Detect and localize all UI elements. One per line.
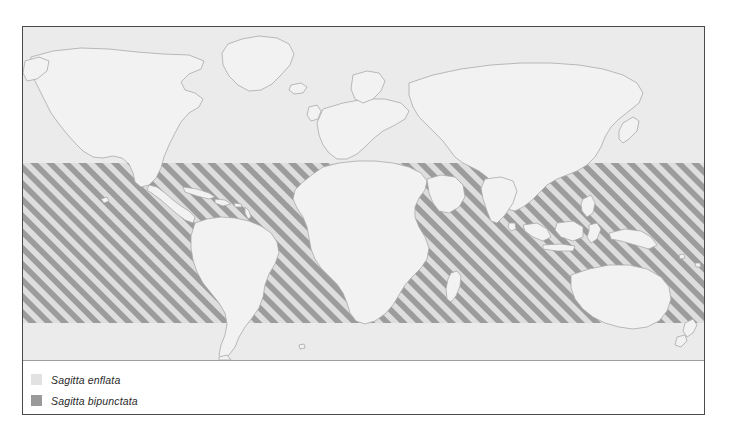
legend-item-enflata[interactable]: Sagitta enflata xyxy=(31,370,704,389)
distribution-map-figure: Sagitta enflata Sagitta bipunctata xyxy=(0,0,729,436)
land-puerto-rico xyxy=(234,203,242,207)
legend-label-enflata: Sagitta enflata xyxy=(51,374,120,386)
legend-swatch-enflata xyxy=(31,374,42,385)
land-pacific-islet-a xyxy=(679,254,685,259)
legend-swatch-bipunctata xyxy=(31,395,42,406)
map-legend: Sagitta enflata Sagitta bipunctata xyxy=(23,361,704,414)
world-map xyxy=(23,27,704,360)
legend-label-bipunctata: Sagitta bipunctata xyxy=(51,395,138,407)
land-pacific-islet-b xyxy=(695,263,701,267)
world-map-svg xyxy=(23,27,704,360)
land-java xyxy=(543,244,575,251)
legend-item-bipunctata[interactable]: Sagitta bipunctata xyxy=(31,391,704,410)
map-panel: Sagitta enflata Sagitta bipunctata xyxy=(22,26,705,415)
land-south-atlantic-islet xyxy=(299,344,305,349)
